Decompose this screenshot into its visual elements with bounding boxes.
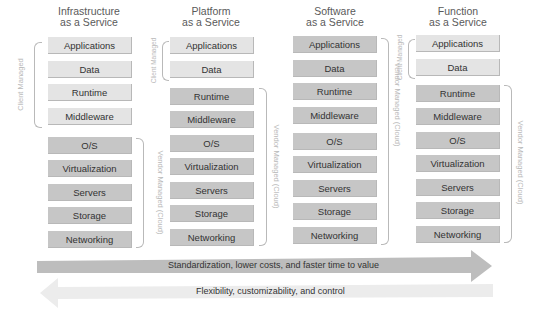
left-arrow-label: Flexibility, customizability, and contro… [196, 286, 345, 296]
left-arrow-icon [0, 0, 551, 319]
